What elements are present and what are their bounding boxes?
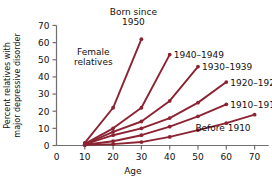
depression-cohort-line-chart: 010203040506070010203040506070 Born sinc… [0,0,272,179]
series-data-point [111,133,115,137]
series-label: Born since [110,7,158,17]
chart-annotation: relatives [74,57,113,67]
x-tick-label: 0 [54,152,60,162]
series-data-point [111,126,115,130]
series-data-point [111,142,115,146]
chart-figure: 010203040506070010203040506070 Born sinc… [0,0,272,179]
x-tick-label: 60 [221,152,233,162]
x-tick-label: 40 [164,152,176,162]
series-data-point [140,126,144,130]
axis-titles: AgePercent relatives withmajor depressiv… [3,33,142,176]
y-tick-label: 50 [38,55,50,65]
y-tick-label: 30 [38,89,50,99]
series-label: 1930–1939 [202,62,253,72]
series-data-point [140,140,144,144]
x-tick-label: 30 [136,152,148,162]
y-tick-label: 10 [38,124,50,134]
series-label: 1920–1929 [230,78,272,88]
x-tick-label: 50 [192,152,204,162]
series-data-point [224,80,228,84]
x-tick-label: 10 [79,152,91,162]
series-data-point [168,116,172,120]
x-axis-title: Age [124,166,142,176]
series-label: 1910–1919 [230,100,272,110]
series-data-point [168,125,172,129]
y-tick-label: 20 [38,107,50,117]
series-data-point [83,143,87,147]
series-data-point [196,114,200,118]
series-data-point [111,106,115,110]
x-tick-label: 70 [249,152,261,162]
series-data-point [196,101,200,105]
y-tick-label: 40 [38,72,50,82]
annotations: Femalerelatives [74,47,113,67]
series-data-point [168,53,172,57]
series-label: 1950 [122,17,145,27]
y-axis-title-line1: Percent relatives with [3,42,12,129]
series-data-point [168,99,172,103]
series-data-point [168,135,172,139]
series-data-point [253,113,257,117]
series-data-point [196,65,200,69]
series-line [85,67,198,145]
series-label: Before 1910 [195,123,250,133]
chart-annotation: Female [77,47,110,57]
series-data-point [140,106,144,110]
y-tick-label: 0 [44,141,50,151]
series-data-point [140,133,144,137]
series-data-point [224,102,228,106]
series-data-point [140,120,144,124]
x-tick-label: 20 [107,152,119,162]
y-axis-title-line2: major depressive disorder [13,33,22,138]
series-data-point [111,130,115,134]
y-tick-label: 70 [38,21,50,31]
y-tick-label: 60 [38,38,50,48]
series-data-point [140,37,144,41]
series-label: 1940–1949 [174,50,225,60]
